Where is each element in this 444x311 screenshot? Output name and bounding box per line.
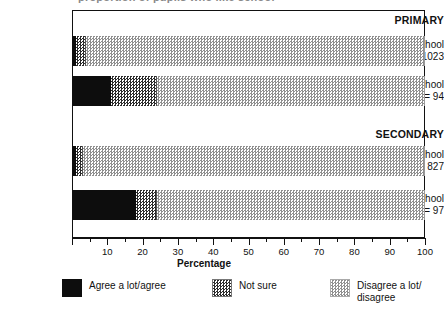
x-axis: 102030405060708090100 [72, 238, 426, 239]
disagree-segment [157, 190, 425, 220]
agree-segment [72, 190, 136, 220]
clipped-title: proportion of pupils who like school [0, 0, 444, 6]
clipped-title-text: proportion of pupils who like school [78, 0, 275, 3]
x-tick-label: 40 [208, 246, 219, 257]
not-sure-segment [111, 76, 157, 106]
x-tick-label: 80 [349, 246, 360, 257]
stacked-bar [72, 36, 425, 66]
legend-label-line1: Disagree a lot/ [357, 280, 421, 291]
x-tick-major [284, 238, 285, 245]
x-tick-major [213, 238, 214, 245]
x-tick-major [72, 238, 73, 245]
group-label-primary: PRIMARY [374, 14, 444, 26]
legend-item: Disagree a lot/disagree [330, 278, 421, 304]
x-tick-label: 50 [243, 246, 254, 257]
disagree-segment [83, 146, 425, 176]
legend-label-line1: Not sure [239, 280, 277, 291]
disagree-segment [86, 36, 425, 66]
x-tick-major [319, 238, 320, 245]
legend-label: Agree a lot/agree [89, 278, 166, 292]
legend-item: Not sure [212, 278, 277, 297]
stacked-bar [72, 146, 425, 176]
agree-segment [72, 76, 111, 106]
legend-label-line2: disagree [357, 292, 421, 304]
x-tick-label: 100 [417, 246, 433, 257]
legend: Agree a lot/agreeNot sureDisagree a lot/… [0, 278, 444, 311]
group-label-secondary: SECONDARY [374, 128, 444, 140]
not-sure-segment [136, 190, 157, 220]
stacked-bar [72, 76, 425, 106]
x-tick-label: 70 [314, 246, 325, 257]
legend-label: Not sure [239, 278, 277, 292]
not-sure-segment [76, 36, 87, 66]
x-tick-major [107, 238, 108, 245]
x-tick-major [390, 238, 391, 245]
x-axis-label: Percentage [0, 258, 444, 269]
x-tick-label: 10 [102, 246, 113, 257]
x-tick-label: 20 [137, 246, 148, 257]
x-tick-major [143, 238, 144, 245]
x-tick-major [178, 238, 179, 245]
legend-swatch-disagree [330, 279, 350, 297]
legend-item: Agree a lot/agree [62, 278, 166, 297]
x-tick-label: 30 [173, 246, 184, 257]
legend-swatch-notsure [212, 279, 232, 297]
x-axis-line [72, 238, 426, 239]
not-sure-segment [76, 146, 83, 176]
x-tick-major [354, 238, 355, 245]
disagree-segment [157, 76, 425, 106]
x-tick-label: 60 [279, 246, 290, 257]
x-tick-label: 90 [384, 246, 395, 257]
legend-swatch-agree [62, 279, 82, 297]
legend-label: Disagree a lot/disagree [357, 278, 421, 304]
stacked-bar [72, 190, 425, 220]
x-tick-major [249, 238, 250, 245]
x-tick-major [425, 238, 426, 245]
legend-label-line1: Agree a lot/agree [89, 280, 166, 291]
